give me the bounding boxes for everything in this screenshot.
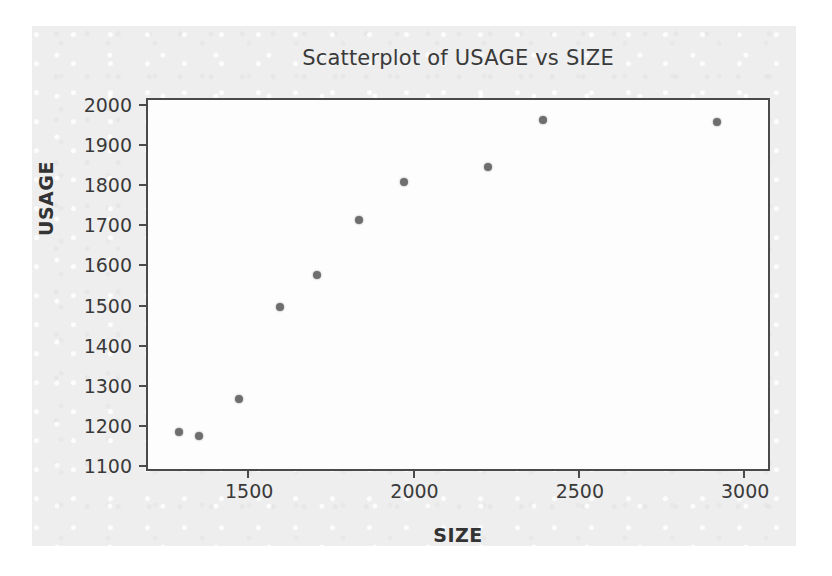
- x-axis-tick-label: 2000: [390, 480, 438, 502]
- x-axis-tick: 2000: [413, 469, 415, 478]
- x-axis-tick-label: 3000: [721, 480, 769, 502]
- y-axis-tick: 1300: [139, 385, 148, 387]
- plot-area: 1100120013001400150016001700180019002000…: [146, 98, 770, 471]
- chart-title: Scatterplot of USAGE vs SIZE: [146, 46, 770, 70]
- y-axis-tick: 1200: [139, 425, 148, 427]
- y-axis-tick-label: 2000: [84, 94, 132, 116]
- x-axis-title: SIZE: [146, 524, 770, 546]
- y-axis-title: USAGE: [35, 161, 57, 236]
- y-axis-tick-label: 1300: [84, 375, 132, 397]
- data-point: [235, 395, 243, 403]
- data-points-layer: [148, 100, 768, 469]
- x-axis-tick-label: 2500: [556, 480, 604, 502]
- y-axis-tick-label: 1900: [84, 134, 132, 156]
- y-axis-tick: 2000: [139, 104, 148, 106]
- y-axis-tick-label: 1500: [84, 295, 132, 317]
- y-axis-tick-label: 1400: [84, 335, 132, 357]
- x-axis-tick: 1500: [247, 469, 249, 478]
- data-point: [195, 432, 203, 440]
- data-point: [484, 163, 492, 171]
- y-axis-tick: 1800: [139, 184, 148, 186]
- y-axis-tick: 1100: [139, 465, 148, 467]
- data-point: [400, 178, 408, 186]
- data-point: [539, 116, 547, 124]
- y-axis-tick: 1900: [139, 144, 148, 146]
- scatterplot-figure: Scatterplot of USAGE vs SIZE 11001200130…: [0, 0, 832, 576]
- y-axis-tick: 1700: [139, 224, 148, 226]
- y-axis-tick-label: 1800: [84, 174, 132, 196]
- y-axis-tick-label: 1200: [84, 415, 132, 437]
- x-axis-tick: 3000: [743, 469, 745, 478]
- data-point: [313, 271, 321, 279]
- x-axis-tick-label: 1500: [225, 480, 273, 502]
- data-point: [175, 428, 183, 436]
- data-point: [355, 216, 363, 224]
- x-axis-tick: 2500: [578, 469, 580, 478]
- y-axis-tick: 1600: [139, 264, 148, 266]
- data-point: [276, 303, 284, 311]
- data-point: [713, 118, 721, 126]
- y-axis-tick: 1400: [139, 345, 148, 347]
- y-axis-tick-label: 1700: [84, 214, 132, 236]
- y-axis-tick: 1500: [139, 305, 148, 307]
- y-axis-tick-label: 1100: [84, 455, 132, 477]
- y-axis-tick-label: 1600: [84, 254, 132, 276]
